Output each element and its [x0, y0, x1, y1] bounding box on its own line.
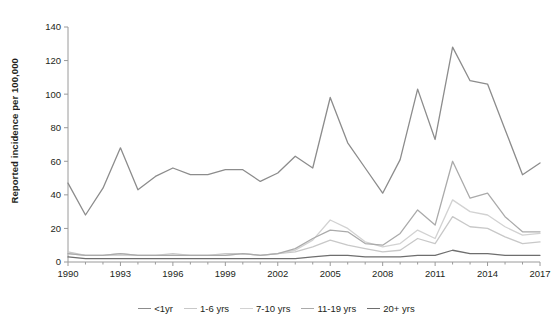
- series-line: [68, 200, 540, 255]
- svg-text:1993: 1993: [110, 268, 131, 279]
- legend-item-label: 1-6 yrs: [200, 303, 229, 314]
- svg-text:100: 100: [45, 89, 61, 100]
- chart-figure: Reported incidence per 100,000 020406080…: [0, 0, 553, 327]
- svg-text:1996: 1996: [162, 268, 183, 279]
- x-axis-ticks: 1990199319961999200220052008201120142017: [57, 262, 550, 279]
- legend-item-label: 20+ yrs: [383, 303, 414, 314]
- svg-text:2011: 2011: [425, 268, 445, 279]
- legend-item[interactable]: 7-10 yrs: [240, 303, 290, 314]
- line-chart-svg: 020406080100120140 199019931996199920022…: [0, 0, 553, 290]
- svg-text:2014: 2014: [477, 268, 498, 279]
- chart-legend: <1yr1-6 yrs7-10 yrs11-19 yrs20+ yrs: [0, 296, 553, 320]
- legend-line-swatch: [301, 308, 314, 309]
- legend-item-label: 7-10 yrs: [256, 303, 290, 314]
- svg-text:60: 60: [50, 156, 61, 167]
- legend-item[interactable]: 20+ yrs: [367, 303, 414, 314]
- series-line: [68, 161, 540, 255]
- legend-line-swatch: [240, 308, 253, 309]
- svg-text:20: 20: [50, 223, 61, 234]
- svg-text:120: 120: [45, 55, 61, 66]
- legend-item-label: 11-19 yrs: [317, 303, 356, 314]
- legend-item[interactable]: 1-6 yrs: [184, 303, 229, 314]
- legend-line-swatch: [367, 308, 380, 309]
- svg-text:1990: 1990: [57, 268, 78, 279]
- svg-text:1999: 1999: [215, 268, 236, 279]
- legend-item[interactable]: <1yr: [138, 303, 173, 314]
- legend-item-label: <1yr: [154, 303, 173, 314]
- series-line: [68, 250, 540, 258]
- svg-text:0: 0: [56, 256, 61, 267]
- svg-text:2002: 2002: [267, 268, 288, 279]
- svg-text:2005: 2005: [320, 268, 341, 279]
- y-axis-ticks: 020406080100120140: [45, 21, 68, 267]
- svg-text:140: 140: [45, 21, 61, 32]
- svg-text:2008: 2008: [372, 268, 393, 279]
- svg-text:2017: 2017: [529, 268, 550, 279]
- series-line: [68, 47, 540, 215]
- legend-item[interactable]: 11-19 yrs: [301, 303, 356, 314]
- series-line: [68, 217, 540, 256]
- svg-text:40: 40: [50, 189, 61, 200]
- svg-text:80: 80: [50, 122, 61, 133]
- data-series-group: [68, 47, 540, 259]
- legend-line-swatch: [184, 308, 197, 309]
- legend-line-swatch: [138, 308, 151, 309]
- plot-area: 020406080100120140 199019931996199920022…: [0, 0, 553, 290]
